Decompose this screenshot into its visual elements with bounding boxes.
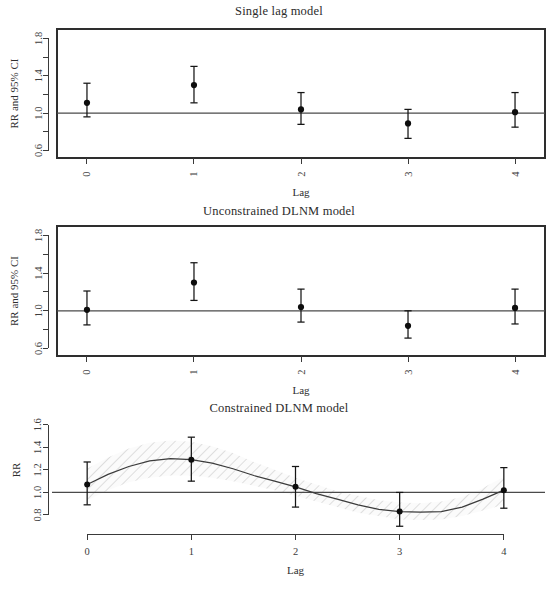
data-point-group [404, 109, 411, 138]
panel-2-plot: 0.61.01.41.8RR and 95% CI01234Lag [0, 200, 558, 398]
data-point [298, 304, 304, 310]
y-tick-label: 0.6 [34, 342, 45, 355]
y-tick-label: 1.2 [33, 463, 44, 476]
data-point [84, 307, 90, 313]
data-point-group [190, 66, 197, 102]
data-point [405, 323, 411, 329]
x-tick-label: 0 [81, 171, 92, 176]
x-tick-label: 4 [510, 171, 521, 177]
data-point [397, 509, 403, 515]
data-point-group [190, 263, 197, 301]
panel-unconstrained-dlnm-model: Unconstrained DLNM model 0.61.01.41.8RR … [0, 200, 558, 398]
y-tick-label: 1.8 [34, 229, 45, 242]
x-tick-label: 2 [293, 546, 298, 557]
data-point [84, 100, 90, 106]
y-axis: 0.81.01.21.41.6 [33, 418, 49, 521]
y-tick-label: 1.0 [34, 107, 45, 120]
data-point-group [404, 311, 411, 338]
data-point-group [511, 289, 518, 324]
x-axis-title: Lag [292, 186, 310, 198]
data-point [84, 482, 90, 488]
x-tick-label: 1 [188, 369, 199, 374]
y-tick-label: 1.0 [33, 486, 44, 499]
x-axis: 01234 [81, 356, 520, 375]
data-point-group [83, 291, 90, 325]
x-axis-title: Lag [292, 384, 310, 396]
x-axis: 01234 [85, 534, 508, 557]
y-tick-label: 0.6 [34, 144, 45, 157]
y-tick-label: 0.8 [33, 508, 44, 521]
x-tick-label: 4 [501, 546, 507, 557]
plot-area: 0.61.01.41.8RR and 95% CI01234Lag [8, 226, 545, 396]
data-point [191, 279, 197, 285]
x-tick-label: 4 [510, 369, 521, 375]
y-tick-label: 1.4 [34, 266, 45, 280]
panel-1-plot: 0.61.01.41.8RR and 95% CI01234Lag [0, 0, 558, 200]
panel-3-plot: 0.81.01.21.41.6RR01234Lag [0, 398, 558, 595]
y-axis-title: RR and 95% CI [8, 256, 20, 326]
data-point [188, 457, 194, 463]
figure-container: Single lag model 0.61.01.41.8RR and 95% … [0, 0, 558, 595]
y-axis-title: RR [10, 462, 22, 477]
x-tick-label: 0 [81, 369, 92, 374]
data-point-group [297, 93, 304, 125]
data-point-group [297, 289, 304, 322]
x-tick-label: 1 [188, 171, 199, 176]
x-axis-title: Lag [287, 564, 305, 576]
x-tick-label: 3 [403, 171, 414, 176]
data-point [405, 120, 411, 126]
x-tick-label: 0 [85, 546, 90, 557]
y-axis-title: RR and 95% CI [8, 58, 20, 128]
panel-single-lag-model: Single lag model 0.61.01.41.8RR and 95% … [0, 0, 558, 200]
y-tick-label: 1.0 [34, 304, 45, 317]
y-tick-label: 1.8 [33, 32, 44, 45]
data-point-group [83, 83, 90, 117]
data-point [501, 487, 507, 493]
y-axis: 0.61.01.41.8 [33, 32, 48, 157]
x-tick-label: 3 [403, 369, 414, 374]
data-point [512, 305, 518, 311]
y-tick-label: 1.4 [34, 68, 45, 82]
data-point [512, 109, 518, 115]
data-point-group [511, 93, 518, 128]
y-tick-label: 1.6 [33, 418, 44, 431]
data-point [298, 106, 304, 112]
plot-area: 0.61.01.41.8RR and 95% CI01234Lag [8, 29, 545, 198]
x-axis: 01234 [81, 158, 520, 177]
y-axis: 0.61.01.41.8 [34, 229, 49, 355]
x-tick-label: 3 [397, 546, 402, 557]
data-series [83, 263, 518, 338]
data-point [191, 82, 197, 88]
x-tick-label: 1 [189, 546, 194, 557]
y-tick-label: 1.4 [33, 440, 44, 454]
data-point-group [292, 466, 299, 507]
x-tick-label: 2 [296, 369, 307, 374]
plot-area: 0.81.01.21.41.6RR01234Lag [10, 418, 545, 576]
data-point [293, 484, 299, 490]
x-tick-label: 2 [296, 171, 307, 176]
data-series [83, 66, 518, 138]
panel-constrained-dlnm-model: Constrained DLNM model 0.81.01.21.41.6RR… [0, 398, 558, 595]
